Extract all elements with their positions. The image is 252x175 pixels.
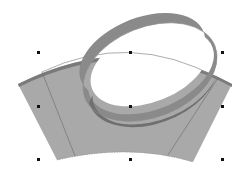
handle-bottom-left[interactable]: [37, 158, 40, 161]
handle-bottom-right[interactable]: [221, 158, 224, 161]
handle-middle-left[interactable]: [37, 105, 40, 108]
handle-middle-right[interactable]: [221, 105, 224, 108]
drawing-canvas[interactable]: [0, 0, 252, 175]
handle-bottom-center[interactable]: [129, 158, 132, 161]
handle-top-right[interactable]: [221, 51, 224, 54]
handle-top-left[interactable]: [37, 51, 40, 54]
handle-top-center[interactable]: [129, 51, 132, 54]
handle-center[interactable]: [129, 105, 132, 108]
